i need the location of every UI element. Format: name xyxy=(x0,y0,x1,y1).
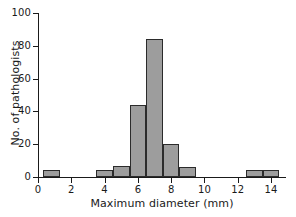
histogram-bar xyxy=(246,170,263,177)
x-axis-tick-label: 8 xyxy=(161,184,181,195)
x-axis-title: Maximum diameter (mm) xyxy=(38,197,286,210)
y-axis-tick xyxy=(33,144,38,145)
x-axis-tick-label: 0 xyxy=(28,184,48,195)
histogram-bar xyxy=(130,105,147,177)
x-axis-tick-label: 14 xyxy=(261,184,281,195)
histogram-bar xyxy=(96,170,113,177)
y-axis-tick xyxy=(33,46,38,47)
y-axis-tick xyxy=(33,79,38,80)
y-axis-tick xyxy=(33,111,38,112)
x-axis-tick-label: 4 xyxy=(95,184,115,195)
x-axis-tick xyxy=(105,178,106,183)
histogram-bar xyxy=(146,39,163,177)
x-axis-tick xyxy=(71,178,72,183)
y-axis-tick-label: 100 xyxy=(0,8,31,18)
x-axis-tick xyxy=(238,178,239,183)
y-axis-tick-label-text: 0 xyxy=(1,172,31,182)
histogram-bar xyxy=(163,144,180,177)
y-axis-line xyxy=(38,13,39,178)
histogram-bar xyxy=(263,170,280,177)
x-axis-tick xyxy=(171,178,172,183)
x-axis-tick xyxy=(38,178,39,183)
x-axis-tick xyxy=(138,178,139,183)
y-axis-tick-label: 0 xyxy=(0,172,31,182)
x-axis-tick xyxy=(271,178,272,183)
histogram-bar xyxy=(113,166,130,177)
x-axis-tick-label: 12 xyxy=(228,184,248,195)
x-axis-tick-label: 6 xyxy=(128,184,148,195)
x-axis-tick-label: 10 xyxy=(194,184,214,195)
plot-area: 02040608010002468101214 xyxy=(0,0,296,217)
y-axis-tick-label-text: 100 xyxy=(1,8,31,18)
histogram-bar xyxy=(179,167,196,177)
histogram-chart: 02040608010002468101214 Maximum diameter… xyxy=(0,0,296,217)
y-axis-tick xyxy=(33,13,38,14)
x-axis-tick xyxy=(204,178,205,183)
x-axis-line xyxy=(38,177,286,178)
y-axis-title: No. of pathologists xyxy=(10,18,22,168)
x-axis-tick-label: 2 xyxy=(61,184,81,195)
histogram-bar xyxy=(43,170,60,177)
